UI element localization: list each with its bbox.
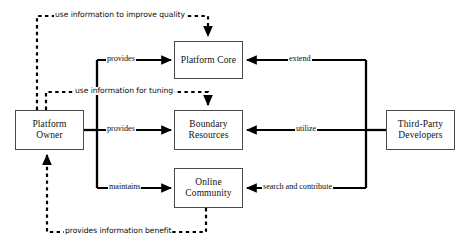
edge-owner-trunk bbox=[84, 60, 97, 188]
node-platform-owner-label: Platform Owner bbox=[30, 119, 68, 140]
diagram-canvas: Platform Owner Platform Core Boundary Re… bbox=[0, 0, 462, 249]
edge-label-information-benefit: provides information benefit bbox=[64, 227, 172, 235]
edge-label-owner-maintains-community: maintains bbox=[108, 183, 141, 191]
node-online-community-label: Online Community bbox=[183, 177, 233, 198]
edge-label-tuning: use information for tuning bbox=[74, 87, 174, 95]
node-platform-core-label: Platform Core bbox=[179, 55, 238, 66]
node-platform-owner[interactable]: Platform Owner bbox=[15, 110, 84, 150]
edge-label-developers-utilize-boundary: utilize bbox=[295, 125, 317, 133]
edge-label-owner-provides-core: provides bbox=[106, 55, 136, 63]
edge-developers-trunk bbox=[366, 60, 386, 188]
node-third-party-developers[interactable]: Third-Party Developers bbox=[386, 110, 455, 150]
node-online-community[interactable]: Online Community bbox=[174, 168, 243, 208]
edge-label-developers-search-contribute-community: search and contribute bbox=[262, 183, 333, 191]
node-boundary-resources-label: Boundary Resources bbox=[187, 119, 231, 140]
edge-label-improve-quality: use information to improve quality bbox=[54, 11, 186, 19]
node-platform-core[interactable]: Platform Core bbox=[174, 41, 243, 79]
edge-label-owner-provides-boundary: provides bbox=[106, 125, 136, 133]
node-boundary-resources[interactable]: Boundary Resources bbox=[174, 110, 243, 150]
edge-label-developers-extend-core: extend bbox=[288, 55, 312, 63]
node-third-party-developers-label: Third-Party Developers bbox=[396, 119, 445, 140]
